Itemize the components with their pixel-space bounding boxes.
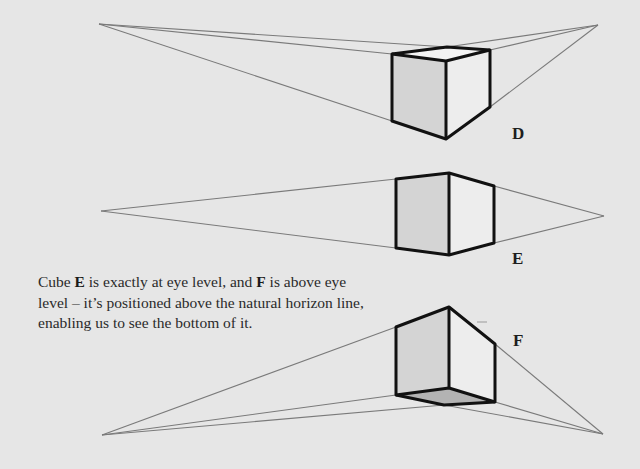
cube-label-f: F [513, 332, 523, 349]
caption-bold-f: F [256, 273, 265, 290]
cube-e-construction-lines [101, 179, 604, 248]
perspective-diagram [0, 0, 640, 469]
cube-f-right-face [449, 307, 495, 402]
cube-d [99, 24, 598, 139]
cube-d-left-face [392, 54, 446, 139]
cube-e-left-face [396, 173, 449, 255]
cube-f-construction-lines [102, 327, 603, 435]
cube-d-right-face [446, 50, 490, 139]
caption-text: Cube E is exactly at eye level, and F is… [38, 272, 368, 334]
caption-part-2: is exactly at eye level, and [85, 273, 256, 290]
cube-label-d: D [512, 125, 524, 142]
cube-d-construction-lines [99, 24, 598, 121]
caption-bold-e: E [75, 273, 85, 290]
cube-label-e: E [512, 250, 523, 267]
cube-f-left-face [396, 307, 449, 395]
caption-part-1: Cube [38, 273, 75, 290]
cube-e [101, 173, 604, 255]
